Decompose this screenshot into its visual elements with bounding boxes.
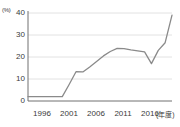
x-axis-unit-label: (年度) bbox=[156, 111, 175, 118]
x-tick-label: 2011 bbox=[114, 110, 131, 118]
chart-container: (%) 40 30 20 10 0 1996 2001 2006 2011 20… bbox=[0, 0, 180, 127]
x-axis-tick-labels: 1996 2001 2006 2011 2016 bbox=[0, 0, 180, 127]
x-tick-label: 1996 bbox=[33, 110, 51, 118]
x-tick-label: 2006 bbox=[87, 110, 105, 118]
x-tick-label: 2001 bbox=[60, 110, 78, 118]
